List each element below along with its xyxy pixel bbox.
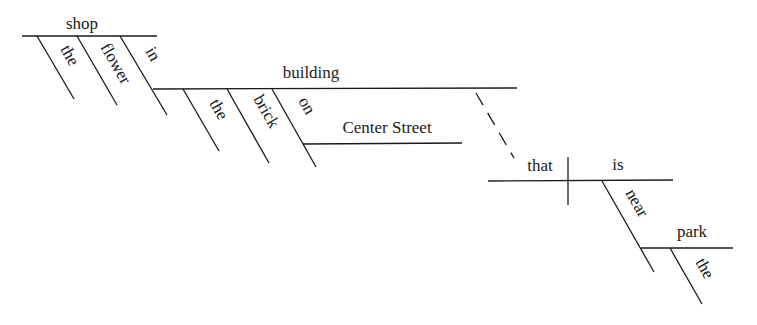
word-that: that bbox=[527, 156, 553, 175]
sentence-diagram: shop the flower in building the brick on… bbox=[0, 0, 757, 325]
baseline-clause bbox=[488, 180, 673, 181]
baseline-building bbox=[153, 88, 517, 89]
word-brick: brick bbox=[250, 92, 284, 132]
word-the-shop: the bbox=[57, 42, 84, 69]
word-the-building: the bbox=[206, 96, 233, 123]
word-shop: shop bbox=[66, 14, 98, 33]
word-is: is bbox=[612, 155, 623, 174]
word-in: in bbox=[142, 44, 165, 65]
dashed-connector bbox=[476, 93, 514, 158]
baseline-center-street bbox=[303, 143, 462, 144]
word-near: near bbox=[622, 186, 653, 221]
word-the-park: the bbox=[692, 255, 719, 282]
word-center-street: Center Street bbox=[342, 118, 431, 137]
slant-the-building bbox=[183, 89, 219, 151]
word-on: on bbox=[295, 94, 320, 119]
slant-the-park bbox=[670, 248, 702, 304]
word-park: park bbox=[677, 222, 708, 241]
word-building: building bbox=[283, 63, 340, 82]
